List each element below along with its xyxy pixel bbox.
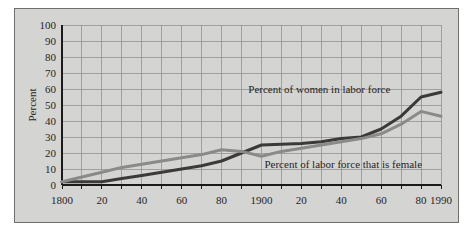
y-tick-label: 80 (45, 51, 57, 63)
x-axis-tick-labels: 1800204060801900204060801990 (51, 194, 453, 206)
y-tick-label: 100 (40, 19, 57, 31)
x-tick-label: 1990 (430, 194, 453, 206)
y-tick-label: 90 (45, 35, 57, 47)
y-tick-label: 50 (45, 99, 57, 111)
plot-wrapper: 0102030405060708090100 18002040608019002… (0, 0, 473, 231)
x-tick-label: 60 (376, 194, 388, 206)
series-annotation-2: Percent of labor force that is female (264, 158, 422, 170)
y-tick-label: 0 (51, 179, 57, 191)
x-tick-label: 1800 (51, 194, 74, 206)
y-tick-label: 30 (45, 131, 57, 143)
x-tick-label: 60 (176, 194, 188, 206)
y-axis-title: Percent (26, 89, 38, 122)
x-tick-label: 40 (336, 194, 348, 206)
x-tick-label: 20 (296, 194, 308, 206)
y-tick-label: 40 (45, 115, 57, 127)
x-tick-label: 1900 (250, 194, 273, 206)
x-tick-label: 80 (416, 194, 428, 206)
y-axis-tick-labels: 0102030405060708090100 (40, 19, 57, 191)
series-annotation-1: Percent of women in labor force (248, 83, 390, 95)
chart-figure: 0102030405060708090100 18002040608019002… (0, 0, 473, 231)
x-tick-label: 40 (136, 194, 148, 206)
y-tick-label: 70 (45, 67, 57, 79)
series-line-2 (62, 111, 441, 181)
y-tick-label: 20 (45, 147, 57, 159)
y-axis-title-text: Percent (26, 89, 38, 122)
y-tick-label: 10 (45, 163, 57, 175)
x-tick-label: 80 (216, 194, 228, 206)
line-chart: 0102030405060708090100 18002040608019002… (0, 0, 473, 231)
y-tick-label: 60 (45, 83, 57, 95)
x-tick-label: 20 (96, 194, 108, 206)
